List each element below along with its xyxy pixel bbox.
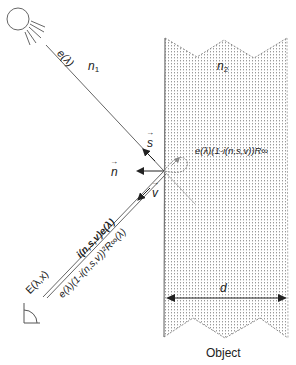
- medium-2-label: n2: [217, 60, 228, 74]
- sun-icon: [7, 8, 45, 45]
- medium-1-symbol: n: [88, 59, 95, 73]
- v-vector-label: v: [152, 187, 158, 199]
- medium-1-subscript: 1: [95, 65, 99, 74]
- reflection-diagram: [0, 0, 296, 365]
- thickness-label: d: [220, 282, 227, 294]
- s-vector-label: s: [147, 137, 153, 149]
- medium-2-subscript: 2: [224, 65, 228, 74]
- object-caption: Object: [206, 347, 241, 359]
- internal-scatter-label: e(λ)(1-i(n,s,v))R∞: [195, 146, 268, 156]
- camera-angle-icon: [24, 303, 40, 323]
- s-vector-arrow: [145, 151, 155, 161]
- medium-2-symbol: n: [217, 59, 224, 73]
- n-vector-label: n: [111, 166, 118, 178]
- medium-1-label: n1: [88, 60, 99, 74]
